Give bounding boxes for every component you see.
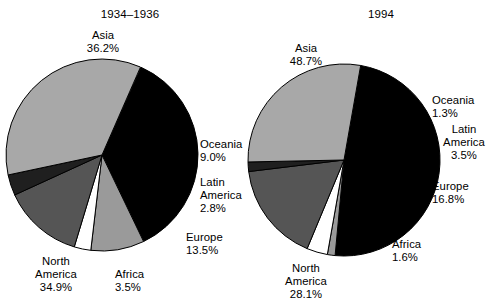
slice-label-name: Africa: [392, 238, 454, 251]
slice-label: LatinAmerica2.8%: [200, 176, 262, 216]
slice-label-name: Latin: [200, 176, 262, 189]
slice-label-name: Oceania: [432, 94, 494, 107]
slice-label-value: 2.8%: [200, 202, 262, 215]
slice-label-name: Oceania: [200, 138, 262, 151]
slice-label-value: 1.6%: [392, 251, 454, 264]
pie-left: [6, 59, 198, 251]
slice-label: Africa3.5%: [115, 268, 177, 294]
pie-slice[interactable]: [248, 64, 361, 162]
slice-label: Asia36.2%: [57, 29, 149, 55]
slice-label-value: 48.7%: [268, 55, 344, 68]
slice-label-name: Asia: [268, 42, 344, 55]
slice-label-value: 16.8%: [432, 193, 494, 206]
slice-label-name: America: [272, 275, 340, 288]
slice-label-name: America: [200, 189, 262, 202]
slice-label-value: 9.0%: [200, 151, 262, 164]
slice-label-value: 34.9%: [22, 281, 90, 294]
slice-label-name: North: [272, 262, 340, 275]
slice-label: Europe13.5%: [186, 231, 248, 257]
slice-label: Europe16.8%: [432, 180, 494, 206]
slice-label-value: 13.5%: [186, 244, 248, 257]
slice-label: NorthAmerica28.1%: [272, 262, 340, 302]
slice-label: Oceania9.0%: [200, 138, 262, 164]
slice-label: Africa1.6%: [392, 238, 454, 264]
slice-label-name: North: [22, 255, 90, 268]
slice-label-value: 3.5%: [115, 281, 177, 294]
slice-label-name: Asia: [57, 29, 149, 42]
slice-label-value: 28.1%: [272, 288, 340, 301]
slice-label-value: 1.3%: [432, 107, 494, 120]
pie-right: [248, 64, 440, 256]
slice-label: NorthAmerica34.9%: [22, 255, 90, 295]
slice-label-name: Europe: [186, 231, 248, 244]
slice-label: Asia48.7%: [268, 42, 344, 68]
slice-label-value: 36.2%: [57, 42, 149, 55]
slice-label: Oceania1.3%: [432, 94, 494, 120]
slice-label-name: Africa: [115, 268, 177, 281]
slice-label: LatinAmerica3.5%: [434, 123, 494, 163]
slice-label-name: America: [22, 268, 90, 281]
slice-label-name: Latin: [434, 123, 494, 136]
slice-label-name: America: [434, 136, 494, 149]
slice-label-name: Europe: [432, 180, 494, 193]
slice-label-value: 3.5%: [434, 149, 494, 162]
